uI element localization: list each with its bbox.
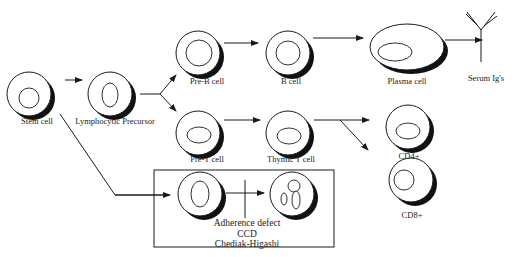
antibody-icon <box>466 12 497 62</box>
pre-t-cell-label: Pre-T cell <box>190 154 224 164</box>
cd8-cell-icon <box>389 158 437 206</box>
cd4-label: CD4+ <box>399 151 420 161</box>
defect-adherence: Adherence defect <box>214 218 281 229</box>
thymic-t-cell-icon <box>266 111 314 159</box>
cd4-cell-icon <box>386 105 434 153</box>
defect-list: Adherence defect CCD Chediak-Higashi <box>214 218 281 250</box>
thymic-t-cell-label: Thymic T cell <box>267 154 315 164</box>
plasma-cell-icon <box>370 24 448 74</box>
serum-ig-label: Serum Ig's <box>468 73 504 83</box>
lymphocytic-precursor-label: Lymphocytic Precursor <box>75 116 155 126</box>
b-cell-label: B cell <box>281 76 301 86</box>
phagocyte-icon <box>270 172 318 220</box>
stem-cell-label: Stem cell <box>21 116 53 126</box>
defect-chediak-higashi: Chediak-Higashi <box>214 239 281 250</box>
pre-t-cell-icon <box>176 111 224 159</box>
phagocyte-precursor-icon <box>178 172 226 220</box>
lymphocyte-development-diagram: Stem cell Lymphocytic Precursor Pre-B ce… <box>0 0 528 257</box>
pre-b-cell-icon <box>176 31 224 79</box>
b-cell-icon <box>266 31 314 79</box>
defect-ccd: CCD <box>214 229 281 240</box>
cd8-label: CD8+ <box>402 210 423 220</box>
plasma-cell-label: Plasma cell <box>388 76 427 86</box>
lymphocytic-precursor-icon <box>88 72 136 120</box>
pre-b-cell-label: Pre-B cell <box>190 76 224 86</box>
stem-cell-icon <box>7 72 55 120</box>
